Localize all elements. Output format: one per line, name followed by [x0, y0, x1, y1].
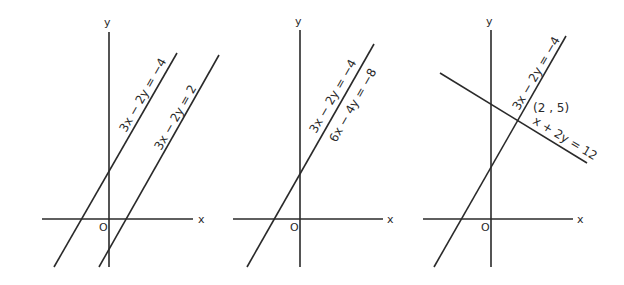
linear-systems-figure: y x O 3x − 2y = −4 3x − 2y = 2 y x O 3x … [0, 0, 624, 285]
origin-label: O [290, 221, 299, 234]
x-axis-label: x [387, 213, 394, 226]
line-3x-2y-eq-neg4 [434, 36, 566, 267]
equation-label: 3x − 2y = 2 [151, 82, 199, 152]
panel-coincident-lines: y x O 3x − 2y = −4 6x − 4y = −8 [233, 15, 394, 267]
panel-intersecting-lines: y x O 3x − 2y = −4 (2 , 5) x + 2y = 12 [423, 15, 600, 267]
line-3x-2y-eq-neg4 [54, 53, 177, 267]
panel-parallel-lines: y x O 3x − 2y = −4 3x − 2y = 2 [42, 16, 219, 267]
origin-label: O [481, 221, 490, 234]
line-3x-2y-eq-neg4 [247, 44, 374, 267]
y-axis-label: y [104, 16, 111, 29]
equation-label: x + 2y = 12 [530, 114, 599, 163]
line-3x-2y-eq-2 [99, 55, 219, 267]
x-axis-label: x [577, 213, 584, 226]
x-axis-label: x [198, 213, 205, 226]
line-x-2y-eq-12 [440, 73, 587, 163]
origin-label: O [99, 221, 108, 234]
y-axis-label: y [486, 15, 493, 28]
y-axis-label: y [295, 15, 302, 28]
equation-label: 3x − 2y = −4 [116, 56, 169, 135]
